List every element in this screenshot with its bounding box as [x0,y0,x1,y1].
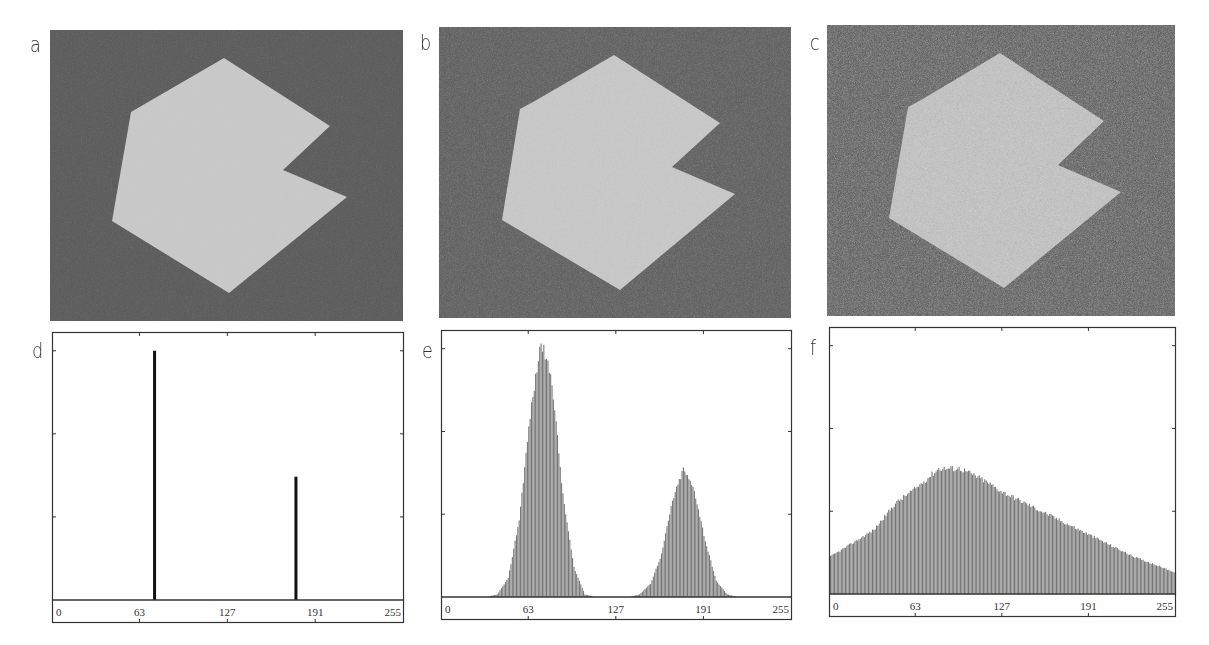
histogram-panel-f: 063127191255 [829,327,1176,617]
histogram-chart-e: 063127191255 [441,330,792,620]
x-tick-label: 255 [1157,600,1174,612]
panel-label-b: b [420,32,431,54]
x-tick-label: 191 [695,603,712,615]
histogram-frame [442,331,792,620]
panel-label-f: f [810,337,816,359]
x-tick-label: 127 [219,606,236,618]
histogram-chart-d: 063127191255 [52,332,404,623]
histogram-spike [294,477,297,600]
histogram-panel-e: 063127191255 [441,330,792,620]
x-tick-label: 0 [445,603,451,615]
histogram-chart-f: 063127191255 [829,327,1176,617]
image-panel-c [827,25,1175,316]
noisy-polygon-image-b [439,27,791,318]
panel-label-a: a [30,34,41,56]
x-tick-label: 191 [1080,600,1097,612]
noisy-polygon-image-c [827,25,1175,316]
x-tick-label: 63 [910,600,922,612]
image-panel-a [50,30,403,321]
histogram-panel-d: 063127191255 [52,332,404,623]
panel-label-c: c [810,32,820,54]
histogram-bars [489,343,736,597]
x-tick-label: 63 [523,603,535,615]
panel-label-d: d [32,340,43,362]
x-tick-label: 255 [385,606,402,618]
noisy-polygon-image-a [50,30,403,321]
x-tick-label: 127 [608,603,625,615]
x-tick-label: 255 [773,603,790,615]
histogram-bars [830,466,1176,594]
x-tick-label: 63 [134,606,146,618]
x-tick-label: 191 [307,606,324,618]
histogram-spike [153,351,156,600]
x-tick-label: 127 [994,600,1011,612]
histogram-bars [153,351,297,600]
x-tick-label: 0 [833,600,839,612]
x-tick-label: 0 [56,606,62,618]
image-panel-b [439,27,791,318]
panel-label-e: e [422,340,433,362]
histogram-frame [53,333,404,623]
